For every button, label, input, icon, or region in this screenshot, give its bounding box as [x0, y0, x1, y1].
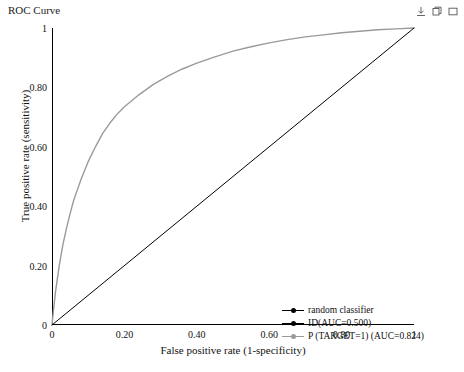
legend-item-target: P (TARGET=1) (AUC=0.824) [282, 330, 424, 343]
chart-toolbar [416, 3, 458, 14]
download-icon[interactable] [416, 3, 426, 14]
legend: random classifier ID(AUC=0.500) P (TARGE… [282, 304, 424, 343]
y-axis-label: True positive rate (sensitivity) [19, 46, 31, 266]
legend-label-target: P (TARGET=1) (AUC=0.824) [308, 330, 424, 343]
series-line-0 [52, 28, 414, 325]
legend-item-random-classifier: random classifier [282, 304, 424, 317]
legend-swatch-id [282, 320, 304, 327]
x-tick-3: 0.60 [260, 329, 278, 340]
legend-swatch-random-classifier [282, 307, 304, 314]
x-tick-2: 0.40 [188, 329, 206, 340]
x-tick-1: 0.20 [116, 329, 134, 340]
maximize-icon[interactable] [448, 3, 458, 14]
legend-item-id: ID(AUC=0.500) [282, 317, 424, 330]
plot-area: 0 0.20 0.40 0.60 0.80 1 0 0.20 0.40 0.60… [52, 28, 414, 325]
y-tick-0: 0 [17, 320, 47, 331]
legend-label-id: ID(AUC=0.500) [308, 317, 371, 330]
y-tick-5: 1 [17, 23, 47, 34]
page-title: ROC Curve [8, 4, 60, 16]
legend-label-random-classifier: random classifier [308, 304, 374, 317]
x-axis-label: False positive rate (1-specificity) [52, 344, 414, 356]
x-tick-0: 0 [50, 329, 55, 340]
roc-curves [52, 28, 414, 325]
copy-icon[interactable] [432, 3, 442, 14]
legend-swatch-target [282, 333, 304, 340]
